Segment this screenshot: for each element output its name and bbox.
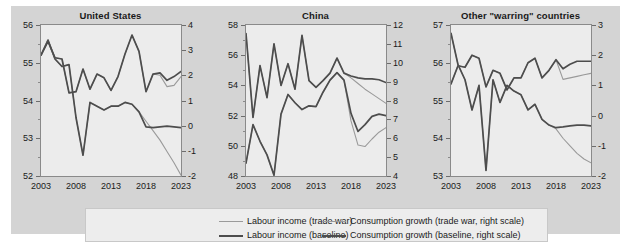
y-axis-tickmark-right [182,151,186,152]
y-axis-tickmark-left [446,138,450,139]
data-series-line [451,33,591,170]
data-series-line [451,55,591,90]
y-axis-tick-label-left: 53 [11,133,33,143]
y-axis-tick-label-right: -1 [188,146,196,156]
y-axis-tick-label-right: -2 [598,171,606,181]
y-axis-tickmark-left [36,101,40,102]
y-axis-tickmark-left [241,176,245,177]
y-axis-tickmark-right [182,126,186,127]
y-axis-tick-label-right: 6 [393,133,398,143]
x-axis-tick-label: 2013 [306,181,326,191]
y-axis-tick-label-right: 1 [188,96,193,106]
plot-area [450,24,592,177]
y-axis-tick-label-right: 7 [393,114,398,124]
chart-panel: China48505254565845678910111220032008201… [216,6,415,202]
y-axis-tickmark-right [592,116,596,117]
x-axis-tick-label: 2018 [341,181,361,191]
data-series-line [41,35,181,93]
x-axis-tick-label: 2023 [171,181,191,191]
y-axis-minor-tickmark-left [448,119,450,120]
y-axis-tick-label-right: 2 [188,70,193,80]
y-axis-tickmark-right [182,75,186,76]
y-axis-tick-label-left: 55 [11,58,33,68]
plot-area [40,24,182,177]
y-axis-tick-label-right: 2 [598,50,603,60]
y-axis-minor-tickmark-left [448,82,450,83]
y-axis-minor-tickmark-left [243,40,245,41]
x-axis-tick-label: 2008 [66,181,86,191]
y-axis-tick-label-right: 12 [393,20,403,30]
y-axis-tickmark-left [36,25,40,26]
y-axis-tickmark-left [241,146,245,147]
y-axis-tickmark-left [241,85,245,86]
y-axis-tick-label-left: 54 [216,80,238,90]
y-axis-tickmark-left [446,176,450,177]
y-axis-tickmark-right [387,138,391,139]
panel-title: United States [11,10,210,21]
y-axis-tickmark-left [36,176,40,177]
y-axis-tick-label-left: 56 [11,20,33,30]
y-axis-minor-tickmark-left [448,44,450,45]
chart-legend: Labour income (trade war)Labour income (… [85,208,548,242]
y-axis-tick-label-left: 56 [421,58,443,68]
y-axis-tick-label-right: 5 [393,152,398,162]
y-axis-tick-label-left: 57 [421,20,443,30]
y-axis-tickmark-right [387,176,391,177]
y-axis-tick-label-left: 58 [216,20,238,30]
x-axis-tick-label: 2013 [511,181,531,191]
y-axis-tick-label-right: -1 [598,141,606,151]
panel-title: China [216,10,415,21]
legend-line-swatch [322,235,346,237]
x-axis-tick-label: 2003 [31,181,51,191]
figure-container: United States5253545556-2-10123420032008… [11,6,620,234]
y-axis-tickmark-right [182,50,186,51]
x-axis-tick-label: 2008 [271,181,291,191]
y-axis-tickmark-left [36,63,40,64]
y-axis-tick-label-right: 4 [188,20,193,30]
y-axis-tick-label-right: 11 [393,39,402,49]
series-canvas [246,25,386,176]
x-axis-tick-label: 2023 [581,181,601,191]
y-axis-tickmark-left [446,101,450,102]
y-axis-tick-label-right: 10 [393,58,403,68]
y-axis-minor-tickmark-left [38,157,40,158]
x-axis-tick-label: 2003 [236,181,256,191]
y-axis-tick-label-right: 0 [598,111,603,121]
y-axis-tick-label-right: 4 [393,171,398,181]
y-axis-tick-label-left: 52 [11,171,33,181]
y-axis-minor-tickmark-left [243,161,245,162]
legend-item-label: Consumption growth (trade war, right sca… [350,214,524,228]
y-axis-tickmark-right [387,119,391,120]
y-axis-tickmark-right [387,157,391,158]
y-axis-tickmark-right [387,25,391,26]
data-series-line [451,33,591,170]
y-axis-tick-label-right: 8 [393,96,398,106]
plot-area [245,24,387,177]
panel-title: Other "warring" countries [421,10,620,21]
y-axis-tick-label-right: 3 [598,20,603,30]
y-axis-tickmark-left [241,116,245,117]
y-axis-tickmark-left [446,25,450,26]
x-axis-tick-label: 2008 [476,181,496,191]
y-axis-tickmark-right [387,101,391,102]
y-axis-tickmark-left [36,138,40,139]
legend-line-swatch [219,235,243,237]
x-axis-tick-label: 2018 [546,181,566,191]
data-series-line [41,35,181,93]
legend-line-swatch [322,221,346,222]
y-axis-tickmark-left [241,55,245,56]
y-axis-minor-tickmark-left [38,119,40,120]
y-axis-tick-label-right: 3 [188,45,193,55]
chart-panel: Other "warring" countries5354555657-2-10… [421,6,620,202]
y-axis-tick-label-right: -2 [188,171,196,181]
y-axis-tickmark-right [182,101,186,102]
x-axis-tick-label: 2013 [101,181,121,191]
series-canvas [41,25,181,176]
y-axis-tickmark-left [241,25,245,26]
y-axis-tickmark-right [182,176,186,177]
y-axis-tick-label-left: 55 [421,96,443,106]
y-axis-minor-tickmark-left [38,44,40,45]
y-axis-tick-label-right: 1 [598,80,603,90]
y-axis-tick-label-right: 9 [393,77,398,87]
legend-item-label: Consumption growth (baseline, right scal… [350,228,521,242]
